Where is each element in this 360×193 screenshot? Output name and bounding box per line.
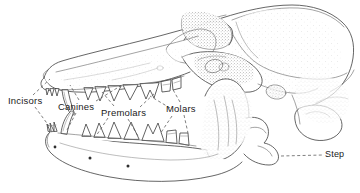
mental-foramen-3 xyxy=(127,165,130,168)
skull-illustration xyxy=(0,0,360,193)
upper-premolar-4 xyxy=(123,85,138,100)
leader-incisors-lower xyxy=(35,107,49,126)
lower-molar-1 xyxy=(166,130,177,143)
lower-premolar-2 xyxy=(94,123,105,137)
cranium-group xyxy=(41,4,354,141)
upper-incisor-2 xyxy=(50,89,54,96)
upper-premolar-1 xyxy=(84,88,93,100)
lower-molar-2 xyxy=(179,133,189,145)
lower-canine xyxy=(61,111,73,134)
leader-molars-lower xyxy=(184,115,188,133)
lower-incisor-3 xyxy=(54,122,57,131)
upper-carnassial xyxy=(140,83,159,99)
lower-premolar-3 xyxy=(108,122,121,138)
upper-molar-1 xyxy=(161,80,171,92)
lower-incisor-2 xyxy=(50,123,54,131)
label-molars: Molars xyxy=(166,104,196,114)
mental-foramen-2 xyxy=(89,157,92,160)
lower-carnassial xyxy=(142,123,164,141)
upper-incisor-1 xyxy=(46,89,49,95)
lower-premolar-1 xyxy=(82,124,91,136)
upper-incisor-3 xyxy=(55,89,59,96)
leader-step xyxy=(281,155,323,156)
mental-foramen-1 xyxy=(54,146,57,149)
label-premolars: Premolars xyxy=(101,108,146,118)
upper-premolar-3 xyxy=(108,86,121,101)
upper-premolar-2 xyxy=(95,87,106,101)
skull-diagram-figure: Incisors Canines Premolars Molars Step xyxy=(0,0,360,193)
label-incisors: Incisors xyxy=(8,96,42,106)
label-canines: Canines xyxy=(58,102,94,112)
label-step: Step xyxy=(325,150,344,159)
